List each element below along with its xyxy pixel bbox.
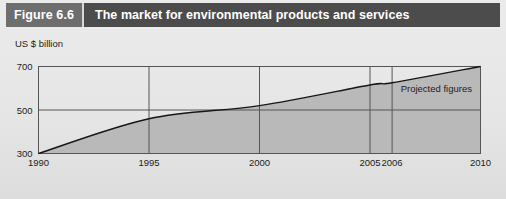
x-tick-label-1990: 1990 xyxy=(28,157,49,168)
chart-plot-area: 300500700 199019952000200520062010 Proje… xyxy=(0,0,506,199)
x-tick-label-2000: 2000 xyxy=(249,157,270,168)
x-tick-label-2010: 2010 xyxy=(470,157,491,168)
x-tick-label-2005: 2005 xyxy=(359,157,380,168)
x-tick-label-2006: 2006 xyxy=(382,157,403,168)
projected-figures-annotation: Projected figures xyxy=(401,83,473,94)
chart-svg: 300500700 199019952000200520062010 Proje… xyxy=(0,0,506,199)
x-tick-label-1995: 1995 xyxy=(138,157,159,168)
x-axis-tick-labels: 199019952000200520062010 xyxy=(28,157,491,168)
y-tick-label-500: 500 xyxy=(17,105,33,116)
figure-container: Figure 6.6 The market for environmental … xyxy=(0,0,506,199)
y-tick-label-700: 700 xyxy=(17,61,33,72)
y-axis-tick-labels: 300500700 xyxy=(17,61,33,159)
